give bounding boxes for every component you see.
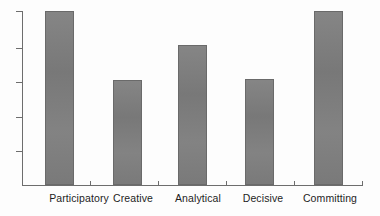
bar-chart: Participatory Creative Analytical Decisi… xyxy=(0,0,380,216)
bar-participatory[interactable] xyxy=(45,11,74,185)
bars-layer xyxy=(0,0,380,216)
bar-committing[interactable] xyxy=(314,11,343,185)
bar-analytical[interactable] xyxy=(178,45,207,185)
x-axis-labels: Participatory Creative Analytical Decisi… xyxy=(0,191,380,209)
bar-decisive[interactable] xyxy=(245,79,274,185)
bar-creative[interactable] xyxy=(113,80,142,185)
x-axis-label-committing: Committing xyxy=(140,191,380,205)
